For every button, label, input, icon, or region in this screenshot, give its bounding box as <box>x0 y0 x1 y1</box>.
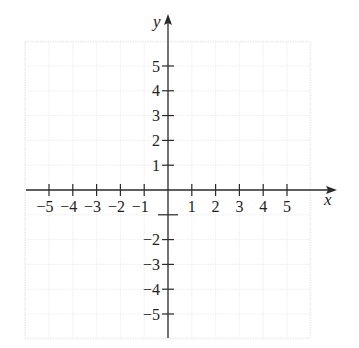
x-tick-label: 1 <box>188 198 196 215</box>
x-tick-label: 4 <box>259 198 267 215</box>
x-tick-label: 3 <box>235 198 243 215</box>
x-tick-label: −4 <box>60 198 77 215</box>
x-axis-label: x <box>323 190 332 209</box>
y-tick-label: −3 <box>143 256 160 273</box>
y-tick-label: 4 <box>152 82 160 99</box>
y-tick-label: −4 <box>143 281 160 298</box>
chart-svg: −5−4−3−2−11234554321−2−3−4−5 x y <box>0 0 359 348</box>
y-axis-label: y <box>151 12 161 31</box>
x-tick-label: −2 <box>108 198 125 215</box>
y-tick-label: −5 <box>143 306 160 323</box>
y-tick-label: 1 <box>152 157 160 174</box>
x-tick-label: −1 <box>132 198 149 215</box>
coordinate-plane: −5−4−3−2−11234554321−2−3−4−5 x y <box>0 0 359 348</box>
x-tick-label: −3 <box>84 198 101 215</box>
x-tick-label: 5 <box>283 198 291 215</box>
x-tick-label: −5 <box>36 198 53 215</box>
y-tick-label: 2 <box>152 132 160 149</box>
y-tick-label: 5 <box>152 58 160 75</box>
y-tick-label: 3 <box>152 107 160 124</box>
x-tick-label: 2 <box>212 198 220 215</box>
y-tick-label: −2 <box>143 231 160 248</box>
